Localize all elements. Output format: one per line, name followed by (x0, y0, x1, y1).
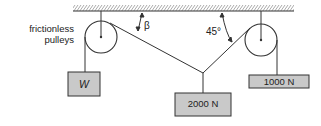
45-degree-angle-arrow (220, 13, 232, 42)
frictionless-pulleys-label: frictionless pulleys (4, 23, 74, 45)
right-pulley (245, 11, 277, 56)
label-line-1: frictionless (4, 23, 74, 34)
beta-label: β (144, 20, 150, 31)
block-1000n-label: 1000 N (249, 75, 309, 88)
beta-angle-arrow (136, 13, 144, 31)
45-degree-label: 45° (206, 26, 221, 37)
block-2000n-label: 2000 N (175, 98, 231, 109)
label-line-2: pulleys (4, 34, 74, 45)
pulley-diagram (0, 0, 321, 126)
ceiling (73, 5, 294, 11)
left-pulley (85, 11, 117, 53)
block-w-label: W (68, 78, 100, 90)
